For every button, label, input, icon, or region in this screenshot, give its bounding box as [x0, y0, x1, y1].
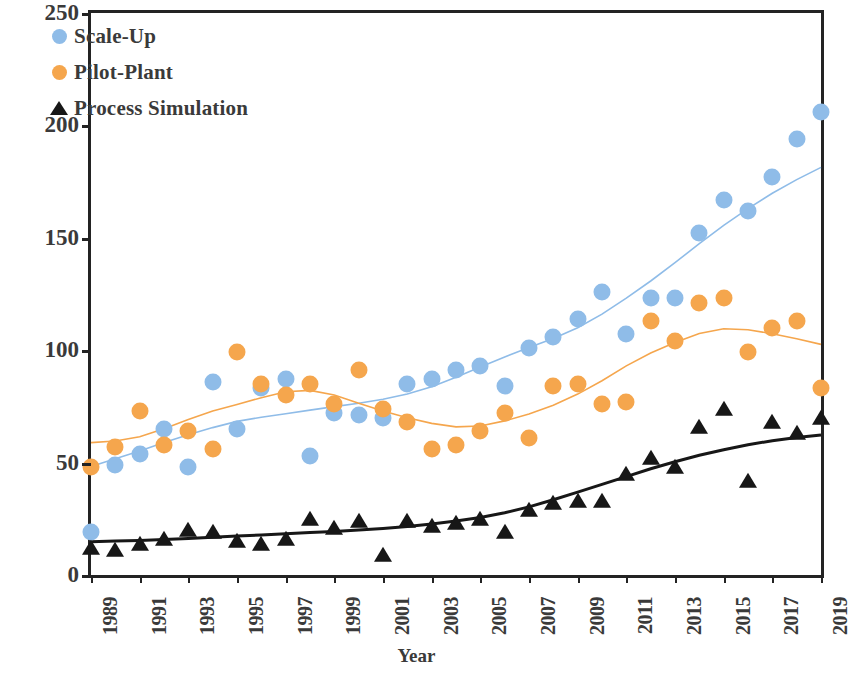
y-tick-label: 0	[68, 562, 80, 588]
data-point	[472, 357, 489, 374]
data-point	[448, 362, 465, 379]
data-point	[667, 290, 684, 307]
data-point	[667, 333, 684, 350]
data-point	[228, 533, 246, 548]
pilot-plant-marker-icon	[44, 65, 74, 80]
data-point	[253, 375, 270, 392]
data-point	[277, 387, 294, 404]
data-point	[496, 524, 514, 539]
data-point	[642, 312, 659, 329]
data-point	[155, 531, 173, 546]
data-point	[204, 441, 221, 458]
x-tick-mark	[383, 575, 385, 583]
legend-label-scale-up: Scale-Up	[74, 24, 156, 49]
data-point	[156, 436, 173, 453]
x-tick-label: 2011	[634, 597, 657, 634]
data-point	[521, 429, 538, 446]
x-tick-label: 2001	[391, 597, 414, 635]
y-axis-title: Number of Publications	[0, 0, 36, 40]
legend-label-process-simulation: Process Simulation	[74, 96, 248, 121]
data-point	[350, 513, 368, 528]
trendline-pilot-plant	[91, 329, 821, 443]
x-tick-label: 1997	[294, 597, 317, 635]
data-point	[521, 339, 538, 356]
data-point	[594, 396, 611, 413]
data-point	[448, 436, 465, 453]
data-point	[277, 371, 294, 388]
x-tick-mark	[675, 575, 677, 583]
x-tick-label: 2019	[829, 597, 852, 635]
x-tick-label: 1991	[148, 597, 171, 635]
y-tick-mark	[82, 238, 91, 241]
x-tick-label: 2017	[780, 597, 803, 635]
data-point	[423, 371, 440, 388]
data-point	[325, 520, 343, 535]
data-point	[812, 409, 830, 424]
data-point	[618, 326, 635, 343]
data-point	[301, 511, 319, 526]
data-point	[764, 319, 781, 336]
y-tick-label: 100	[45, 337, 80, 363]
x-tick-mark	[140, 575, 142, 583]
x-tick-mark	[626, 575, 628, 583]
data-point	[350, 362, 367, 379]
legend-label-pilot-plant: Pilot-Plant	[74, 60, 173, 85]
data-point	[302, 447, 319, 464]
data-point	[302, 375, 319, 392]
data-point	[740, 344, 757, 361]
x-tick-mark	[772, 575, 774, 583]
data-point	[277, 531, 295, 546]
data-point	[472, 423, 489, 440]
x-tick-label: 2007	[537, 597, 560, 635]
data-point	[83, 459, 100, 476]
data-point	[715, 191, 732, 208]
y-tick-mark	[82, 13, 91, 16]
data-point	[229, 344, 246, 361]
data-point	[106, 542, 124, 557]
data-point	[569, 375, 586, 392]
data-point	[520, 502, 538, 517]
x-axis-title: Year	[0, 645, 833, 667]
process-simulation-marker-icon	[44, 101, 74, 115]
x-tick-label: 1989	[99, 597, 122, 635]
y-tick-label: 50	[56, 450, 79, 476]
data-point	[447, 515, 465, 530]
data-point	[326, 396, 343, 413]
data-point	[666, 459, 684, 474]
data-point	[423, 441, 440, 458]
data-point	[423, 517, 441, 532]
x-tick-label: 2003	[440, 597, 463, 635]
data-point	[131, 445, 148, 462]
data-point	[83, 524, 100, 541]
data-point	[398, 513, 416, 528]
data-point	[788, 130, 805, 147]
data-point	[691, 225, 708, 242]
x-tick-mark	[286, 575, 288, 583]
x-tick-mark	[237, 575, 239, 583]
data-point	[788, 425, 806, 440]
data-point	[813, 380, 830, 397]
data-point	[691, 294, 708, 311]
data-point	[813, 103, 830, 120]
data-point	[788, 312, 805, 329]
x-tick-mark	[188, 575, 190, 583]
x-tick-label: 1993	[196, 597, 219, 635]
data-point	[204, 373, 221, 390]
data-point	[593, 493, 611, 508]
data-point	[252, 535, 270, 550]
chart-legend: Scale-Up Pilot-Plant Process Simulation	[44, 18, 248, 126]
data-point	[715, 400, 733, 415]
data-point	[375, 400, 392, 417]
x-tick-label: 2009	[586, 597, 609, 635]
data-point	[715, 290, 732, 307]
data-point	[569, 310, 586, 327]
x-tick-mark	[578, 575, 580, 583]
trendline-scale-up	[91, 167, 821, 466]
data-point	[545, 378, 562, 395]
data-point	[740, 202, 757, 219]
data-point	[82, 540, 100, 555]
x-tick-label: 2013	[683, 597, 706, 635]
y-tick-label: 150	[45, 225, 80, 251]
x-tick-mark	[480, 575, 482, 583]
